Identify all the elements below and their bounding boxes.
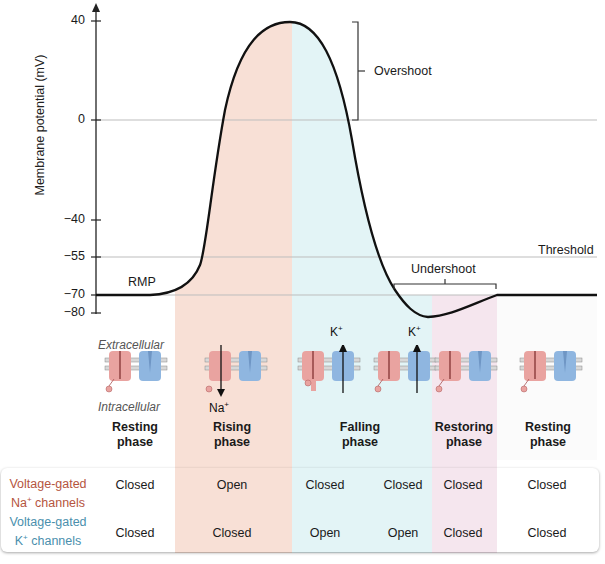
tick-minus80: −80 xyxy=(64,305,85,319)
k-state-resting-1: Closed xyxy=(100,526,170,540)
k-state-resting-2: Closed xyxy=(512,526,582,540)
tick-minus40: −40 xyxy=(64,212,85,226)
channel-pair-resting-1 xyxy=(105,351,167,392)
rising-band-upper xyxy=(175,0,292,330)
k-ion-label-2: K+ xyxy=(408,324,421,339)
phase-label-resting-1: Restingphase xyxy=(100,420,170,450)
k-ion-label-1: K+ xyxy=(330,324,343,339)
channel-pair-restoring xyxy=(435,351,497,392)
phase-label-rising: Risingphase xyxy=(197,420,267,450)
na-ion-label: Na+ xyxy=(209,400,229,415)
overshoot-label: Overshoot xyxy=(374,64,432,78)
tick-minus70: −70 xyxy=(64,287,85,301)
rmp-label: RMP xyxy=(128,275,156,289)
na-state-resting-2: Closed xyxy=(512,478,582,492)
threshold-label: Threshold xyxy=(538,243,594,257)
channel-icons xyxy=(0,345,605,425)
tick-0: 0 xyxy=(78,112,85,126)
k-row-label: Voltage-gated K+ channels xyxy=(0,515,96,549)
na-row-label: Voltage-gated Na+ channels xyxy=(0,477,96,511)
tick-40: 40 xyxy=(71,13,85,27)
falling-band-upper xyxy=(292,0,432,330)
undershoot-bracket xyxy=(394,284,496,289)
y-axis-arrow-icon xyxy=(92,3,100,12)
action-potential-diagram: Membrane potential (mV) 40 0 −40 −55 −70… xyxy=(0,0,605,564)
k-state-restoring: Closed xyxy=(428,526,498,540)
na-state-resting-1: Closed xyxy=(100,478,170,492)
phase-label-restoring: Restoringphase xyxy=(428,420,500,450)
undershoot-label: Undershoot xyxy=(411,262,476,276)
overshoot-bracket xyxy=(352,22,358,120)
phase-label-falling: Fallingphase xyxy=(325,420,395,450)
k-state-rising: Closed xyxy=(197,526,267,540)
phase-label-resting-2: Restingphase xyxy=(513,420,583,450)
tick-minus55: −55 xyxy=(64,249,85,263)
k-channel-icon xyxy=(408,351,430,381)
channel-pair-resting-2 xyxy=(520,351,582,392)
na-state-falling-1: Closed xyxy=(290,478,360,492)
k-state-falling-1: Open xyxy=(290,526,360,540)
restoring-band-upper xyxy=(432,0,497,330)
channel-pair-falling-2 xyxy=(374,345,436,393)
na-state-rising: Open xyxy=(197,478,267,492)
na-state-restoring: Closed xyxy=(428,478,498,492)
channel-pair-falling-1 xyxy=(298,345,360,393)
channel-pair-rising xyxy=(205,345,267,397)
y-axis-label: Membrane potential (mV) xyxy=(33,50,47,200)
na-channel-icon xyxy=(209,351,231,381)
